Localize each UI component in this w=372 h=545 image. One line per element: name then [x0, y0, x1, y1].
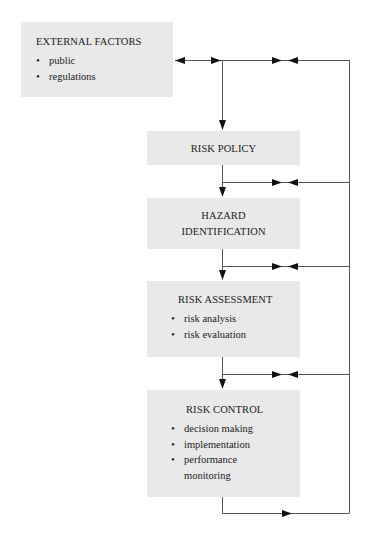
list-item: regulations [36, 69, 173, 85]
risk-assessment-box: RISK ASSESSMENT risk analysis risk evalu… [147, 281, 300, 357]
external-factors-list: public regulations [36, 53, 173, 84]
external-factors-title: EXTERNAL FACTORS [36, 36, 173, 47]
risk-policy-title: RISK POLICY [191, 143, 257, 154]
hazard-identification-box: HAZARD IDENTIFICATION [147, 198, 300, 249]
arrow-right-icon [282, 510, 292, 517]
arrow-down-icon [219, 120, 226, 130]
list-item: risk evaluation [171, 327, 300, 343]
risk-control-title: RISK CONTROL [186, 404, 300, 415]
arrow-down-icon [219, 187, 226, 197]
list-item: risk analysis [171, 311, 300, 327]
risk-policy-box: RISK POLICY [147, 131, 300, 165]
list-item: performance [171, 452, 300, 468]
risk-control-list: decision making implementation performan… [171, 421, 300, 483]
list-item-continuation: monitoring [171, 468, 300, 484]
hazard-title-line2: IDENTIFICATION [181, 224, 265, 240]
external-factors-box: EXTERNAL FACTORS public regulations [21, 22, 173, 97]
arrow-down-icon [219, 270, 226, 280]
list-item: public [36, 53, 173, 69]
risk-assessment-list: risk analysis risk evaluation [171, 311, 300, 342]
arrow-left-icon [175, 57, 185, 64]
list-item: implementation [171, 437, 300, 453]
arrow-down-icon [219, 379, 226, 389]
list-item: decision making [171, 421, 300, 437]
arrow-left-icon [288, 57, 298, 64]
risk-assessment-title: RISK ASSESSMENT [178, 294, 300, 305]
risk-control-box: RISK CONTROL decision making implementat… [147, 390, 300, 497]
arrow-right-icon [272, 57, 282, 64]
arrow-right-icon [211, 57, 221, 64]
hazard-title-line1: HAZARD [201, 208, 245, 224]
